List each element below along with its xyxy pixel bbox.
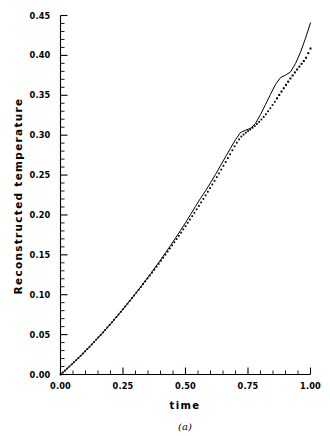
data-point-marker [298, 66, 300, 68]
data-point-marker [82, 353, 84, 355]
data-point-marker [263, 116, 265, 118]
data-point-marker [127, 303, 129, 305]
data-point-marker [214, 180, 216, 182]
data-point-marker [194, 212, 196, 214]
data-point-marker [165, 254, 167, 256]
data-point-marker [229, 153, 231, 155]
data-point-marker [89, 346, 91, 348]
y-tick-label: 0.40 [29, 50, 50, 60]
data-point-marker [140, 286, 142, 288]
x-tick-label: 0.75 [237, 381, 258, 391]
tick-marks-group [61, 16, 311, 375]
y-axis-label: Reconstructed temperature [12, 98, 24, 295]
data-point-marker [73, 361, 75, 363]
data-point-marker [153, 269, 155, 271]
data-point-marker [252, 127, 254, 129]
data-point-marker [124, 306, 126, 308]
data-point-marker [307, 52, 309, 54]
figure-panel-a: 0.000.050.100.150.200.250.300.350.400.45… [0, 0, 330, 436]
y-tick-label: 0.45 [29, 11, 50, 21]
data-point-marker [115, 316, 117, 318]
data-point-marker [60, 374, 62, 376]
data-point-marker [310, 48, 312, 50]
data-point-marker [196, 208, 198, 210]
data-point-marker [77, 357, 79, 359]
data-point-marker [142, 283, 144, 285]
data-point-marker [296, 69, 298, 71]
data-point-marker [305, 57, 307, 59]
data-point-marker [180, 232, 182, 234]
data-point-marker [182, 229, 184, 231]
data-point-marker [167, 251, 169, 253]
data-point-marker [294, 71, 296, 73]
data-point-marker [66, 368, 68, 370]
data-point-marker [227, 157, 229, 159]
data-point-marker [202, 198, 204, 200]
data-point-marker [276, 97, 278, 99]
data-point-marker [111, 321, 113, 323]
data-point-marker [151, 272, 153, 274]
y-tick-label: 0.00 [29, 370, 50, 380]
data-point-marker [69, 366, 71, 368]
data-point-marker [84, 350, 86, 352]
data-point-marker [287, 81, 289, 83]
data-point-marker [162, 257, 164, 259]
data-point-marker [113, 319, 115, 321]
y-tick-label: 0.10 [29, 290, 50, 300]
figure-caption: (a) [178, 421, 192, 432]
x-tick-label: 0.00 [50, 381, 71, 391]
data-point-marker [261, 119, 263, 121]
x-axis-label: time [169, 400, 200, 411]
data-point-marker [267, 110, 269, 112]
data-point-marker [118, 314, 120, 316]
data-point-marker [303, 60, 305, 62]
data-point-marker [122, 308, 124, 310]
data-point-marker [301, 63, 303, 65]
data-point-marker [138, 289, 140, 291]
data-point-marker [223, 165, 225, 167]
data-point-marker [129, 300, 131, 302]
series-line-exact [61, 23, 311, 375]
chart-canvas: 0.000.050.100.150.200.250.300.350.400.45… [0, 0, 330, 436]
data-point-marker [144, 280, 146, 282]
data-point-marker [220, 169, 222, 171]
data-point-marker [247, 130, 249, 132]
data-point-marker [274, 101, 276, 103]
data-point-marker [133, 295, 135, 297]
data-point-marker [158, 263, 160, 265]
data-point-marker [160, 260, 162, 262]
data-point-marker [234, 145, 236, 147]
y-tick-label: 0.15 [29, 250, 50, 260]
y-tick-label: 0.20 [29, 210, 50, 220]
series-markers-reconstructed [60, 48, 312, 376]
data-point-marker [187, 222, 189, 224]
data-point-marker [189, 219, 191, 221]
y-tick-label: 0.30 [29, 130, 50, 140]
data-point-marker [258, 121, 260, 123]
y-tick-label: 0.35 [29, 90, 50, 100]
data-point-marker [98, 336, 100, 338]
data-point-marker [93, 341, 95, 343]
data-point-marker [278, 94, 280, 96]
data-point-marker [211, 184, 213, 186]
data-point-marker [62, 372, 64, 374]
data-point-marker [265, 113, 267, 115]
data-point-marker [292, 74, 294, 76]
data-point-marker [209, 187, 211, 189]
data-point-marker [289, 77, 291, 79]
data-point-marker [169, 248, 171, 250]
data-point-marker [218, 173, 220, 175]
data-point-marker [104, 329, 106, 331]
data-point-marker [173, 241, 175, 243]
y-tick-label: 0.05 [29, 330, 50, 340]
data-point-marker [136, 292, 138, 294]
data-point-marker [102, 332, 104, 334]
data-point-marker [232, 149, 234, 151]
data-point-marker [171, 245, 173, 247]
data-point-marker [71, 364, 73, 366]
tick-labels-group: 0.000.050.100.150.200.250.300.350.400.45… [29, 11, 321, 391]
data-point-marker [254, 125, 256, 127]
data-point-marker [236, 142, 238, 144]
data-point-marker [243, 134, 245, 136]
data-point-marker [176, 238, 178, 240]
